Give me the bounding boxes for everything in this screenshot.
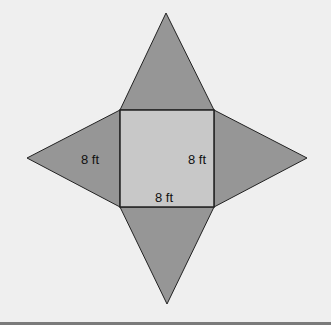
left-face-label: 8 ft <box>81 152 99 167</box>
bottom-triangle-face <box>120 207 214 304</box>
pyramid-net-diagram: 8 ft 8 ft 8 ft <box>0 0 331 325</box>
top-triangle-face <box>120 13 214 110</box>
base-right-label: 8 ft <box>188 152 206 167</box>
base-bottom-label: 8 ft <box>155 190 173 205</box>
left-triangle-face <box>27 110 120 207</box>
right-triangle-face <box>214 110 307 207</box>
